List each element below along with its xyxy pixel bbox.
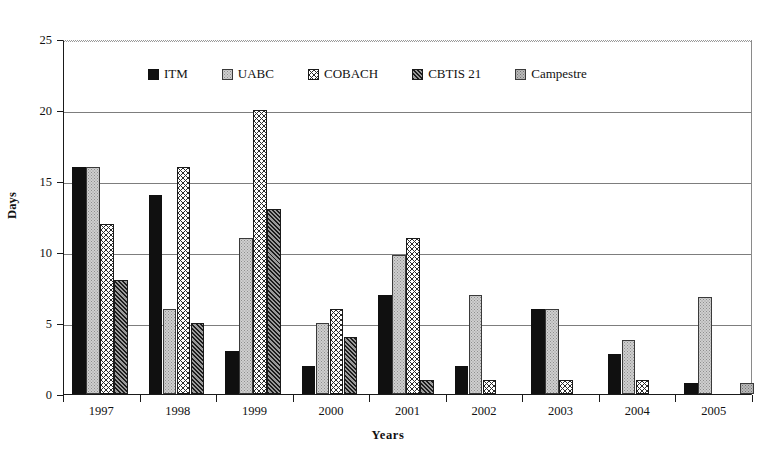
x-tick-label-2004: 2004	[597, 404, 677, 419]
y-tick-label: 15	[18, 175, 52, 190]
legend-item-itm: ITM	[148, 66, 188, 82]
legend-swatch-icon	[222, 69, 233, 80]
legend-swatch-icon	[308, 69, 319, 80]
legend-label: Campestre	[531, 66, 587, 82]
bar-uabc-1998	[163, 309, 177, 394]
y-tick-label: 25	[18, 33, 52, 48]
legend-swatch-icon	[412, 69, 423, 80]
legend-swatch-icon	[515, 69, 526, 80]
bar-uabc-2000	[316, 323, 330, 394]
bar-cbtis-21-1998	[191, 323, 205, 394]
gridline	[64, 112, 751, 113]
bar-cobach-2004	[636, 380, 650, 394]
bar-cbtis-21-2000	[344, 337, 358, 394]
bar-uabc-2002	[469, 295, 483, 394]
x-tick-label-2001: 2001	[368, 404, 448, 419]
legend-item-campestre: Campestre	[515, 66, 587, 82]
x-tick-mark	[293, 395, 294, 402]
bar-cobach-2000	[330, 309, 344, 394]
x-tick-mark	[140, 395, 141, 402]
bar-itm-2000	[302, 366, 316, 394]
x-tick-label-1997: 1997	[61, 404, 141, 419]
plot-area	[63, 40, 752, 395]
bar-cobach-2002	[483, 380, 497, 394]
bar-itm-1998	[149, 195, 163, 394]
bar-cobach-2001	[406, 238, 420, 394]
x-tick-mark	[446, 395, 447, 402]
bar-cbtis-21-1997	[114, 280, 128, 394]
x-tick-mark	[216, 395, 217, 402]
legend-item-uabc: UABC	[222, 66, 274, 82]
legend-label: UABC	[238, 66, 274, 82]
gridline	[64, 41, 751, 42]
bar-cobach-2003	[559, 380, 573, 394]
y-tick-label: 10	[18, 246, 52, 261]
bar-uabc-1999	[239, 238, 253, 394]
legend-item-cobach: COBACH	[308, 66, 378, 82]
bar-campestre-2005	[740, 383, 754, 394]
gridline	[64, 183, 751, 184]
bar-cobach-1999	[253, 110, 267, 394]
x-tick-label-2005: 2005	[674, 404, 754, 419]
legend-item-cbtis-21: CBTIS 21	[412, 66, 481, 82]
y-tick-label: 0	[18, 388, 52, 403]
x-axis-title: Years	[0, 428, 776, 443]
bar-itm-2002	[455, 366, 469, 394]
x-tick-mark	[675, 395, 676, 402]
y-tick-label: 20	[18, 104, 52, 119]
y-tick-label: 5	[18, 317, 52, 332]
x-tick-label-1998: 1998	[138, 404, 218, 419]
bar-itm-1997	[72, 167, 86, 394]
bar-uabc-2003	[545, 309, 559, 394]
x-tick-mark	[752, 395, 753, 402]
bar-itm-2001	[378, 295, 392, 394]
x-tick-mark	[369, 395, 370, 402]
bar-uabc-2004	[622, 340, 636, 394]
bar-chart-figure: Days 0510152025 199719981999200020012002…	[0, 0, 776, 467]
x-tick-mark	[599, 395, 600, 402]
bar-itm-2003	[531, 309, 545, 394]
x-tick-mark	[522, 395, 523, 402]
bar-cbtis-21-2001	[420, 380, 434, 394]
bar-itm-1999	[225, 351, 239, 394]
x-tick-label-1999: 1999	[214, 404, 294, 419]
legend-swatch-icon	[148, 69, 159, 80]
x-tick-label-2002: 2002	[444, 404, 524, 419]
chart-legend: ITMUABCCOBACHCBTIS 21Campestre	[148, 66, 621, 82]
x-tick-label-2000: 2000	[291, 404, 371, 419]
bar-uabc-2001	[392, 255, 406, 394]
bar-itm-2005	[684, 383, 698, 394]
bar-cbtis-21-1999	[267, 209, 281, 394]
bar-itm-2004	[608, 354, 622, 394]
x-tick-label-2003: 2003	[521, 404, 601, 419]
bar-cobach-1997	[100, 224, 114, 394]
legend-label: ITM	[164, 66, 188, 82]
bar-cobach-1998	[177, 167, 191, 394]
y-axis-title: Days	[5, 192, 20, 219]
legend-label: CBTIS 21	[428, 66, 481, 82]
legend-label: COBACH	[324, 66, 378, 82]
bar-uabc-2005	[698, 297, 712, 394]
bar-uabc-1997	[86, 167, 100, 394]
x-tick-mark	[63, 395, 64, 402]
